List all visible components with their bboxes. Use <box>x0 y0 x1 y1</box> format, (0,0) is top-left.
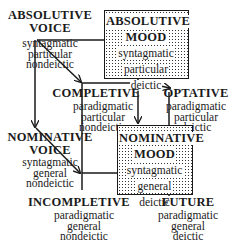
node-absolutive-voice: ABSOLUTIVE VOICE syntagmatic particular … <box>2 9 98 70</box>
node-title: COMPLETIVE <box>44 87 148 100</box>
feature-label: syntagmatic <box>126 165 184 176</box>
feature-label: nondeictic <box>2 59 98 70</box>
feature-label: syntagmatic <box>117 48 175 59</box>
feature-label: syntagmatic <box>2 157 98 168</box>
feature-label: general <box>137 181 173 192</box>
node-title: OPTATIVE <box>160 87 232 100</box>
feature-label: syntagmatic <box>2 38 98 49</box>
node-absolutive-mood-box: ABSOLUTIVE MOOD syntagmatic particular d… <box>104 10 189 79</box>
feature-label: deictic <box>150 231 226 242</box>
feature-label: paradigmatic <box>28 210 128 221</box>
node-title: VOICE <box>2 22 98 35</box>
cube-diagram: ABSOLUTIVE VOICE syntagmatic particular … <box>0 0 232 244</box>
node-title: MOOD <box>133 148 176 161</box>
node-future: FUTURE paradigmatic general deictic <box>150 196 226 242</box>
node-title: NOMINATIVE <box>118 132 205 145</box>
node-title: ABSOLUTIVE <box>105 15 191 28</box>
feature-label: nondeictic <box>2 178 98 189</box>
feature-label: paradigmatic <box>160 101 232 112</box>
feature-label: nondeictic <box>28 231 128 242</box>
feature-label: paradigmatic <box>150 210 226 221</box>
node-title: FUTURE <box>150 196 226 209</box>
feature-label: paradigmatic <box>44 101 148 112</box>
node-nominative-mood-box: NOMINATIVE MOOD syntagmatic general deic… <box>117 125 193 195</box>
feature-label: particular <box>123 64 169 75</box>
node-nominative-voice: NOMINATIVE VOICE syntagmatic general non… <box>2 131 98 189</box>
node-title: INCOMPLETIVE <box>28 196 128 209</box>
node-title: MOOD <box>124 31 167 44</box>
node-incompletive: INCOMPLETIVE paradigmatic general nondei… <box>28 196 128 242</box>
